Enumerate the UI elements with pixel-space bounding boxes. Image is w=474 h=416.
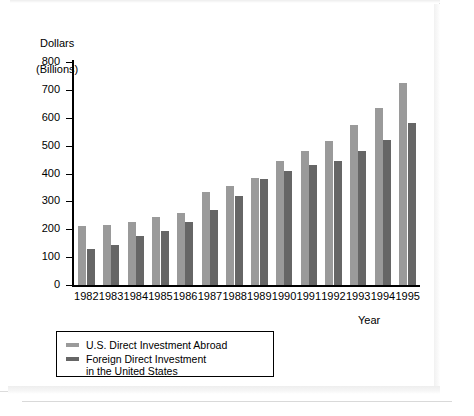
bar-1992-series-1 [334,161,342,285]
bar-group-1987 [202,62,219,285]
bar-group-1988 [226,62,243,285]
bar-1991-series-1 [309,165,317,285]
bar-1982-series-1 [87,249,95,285]
bar-1995-series-1 [408,123,416,285]
y-tick-label-700: 700 [20,84,60,95]
y-tick-label-400: 400 [20,168,60,179]
chart-page: Dollars (Billions) 800700600500400300200… [0,0,474,416]
legend-swatch-icon-light [66,343,79,347]
bar-1991-series-0 [301,151,309,285]
bar-group-1994 [375,62,392,285]
y-tick-600 [66,118,73,119]
bar-group-1982 [78,62,95,285]
y-tick-label-100: 100 [20,251,60,262]
bar-series-container [74,62,420,285]
bar-group-1990 [276,62,293,285]
bar-1994-series-1 [383,140,391,285]
bar-1993-series-1 [358,151,366,285]
x-tick-label-1995: 1995 [394,290,422,302]
y-tick-label-200: 200 [20,223,60,234]
y-tick-label-500: 500 [20,140,60,151]
bar-1990-series-1 [284,171,292,285]
legend-label-0: U.S. Direct Investment Abroad [86,339,227,351]
bar-1995-series-0 [399,83,407,285]
y-tick-label-0: 0 [20,279,60,290]
y-tick-800 [66,62,73,63]
bar-group-1984 [128,62,145,285]
y-tick-300 [66,201,73,202]
bar-group-1983 [103,62,120,285]
bar-1992-series-0 [325,141,333,285]
bar-1989-series-1 [260,179,268,285]
bar-1989-series-0 [251,178,259,285]
y-axis-title-line1: Dollars [36,37,78,50]
x-axis-title: Year [358,314,380,326]
y-tick-500 [66,146,73,147]
bar-group-1989 [251,62,268,285]
plate-bottom-rule [22,401,452,402]
legend-swatch-icon-dark [66,357,79,361]
x-axis-line [72,285,420,287]
bar-1984-series-1 [136,236,144,285]
bar-1983-series-1 [111,245,119,285]
bar-1984-series-0 [128,222,136,285]
y-tick-400 [66,174,73,175]
bar-1987-series-1 [210,210,218,285]
y-tick-0 [66,285,73,286]
bar-group-1985 [152,62,169,285]
legend-item-us-direct-investment-abroad: U.S. Direct Investment Abroad [66,339,227,351]
bar-1994-series-0 [375,108,383,285]
y-tick-label-300: 300 [20,195,60,206]
y-tick-700 [66,90,73,91]
bar-group-1995 [399,62,416,285]
bar-1986-series-1 [185,222,193,285]
bar-1988-series-0 [226,186,234,285]
y-tick-200 [66,229,73,230]
bar-group-1992 [325,62,342,285]
y-tick-100 [66,257,73,258]
bar-chart: Dollars (Billions) 800700600500400300200… [0,0,440,392]
bar-group-1986 [177,62,194,285]
legend-item-foreign-direct-investment-us: Foreign Direct Investment in the United … [66,353,206,377]
bar-1988-series-1 [235,196,243,285]
chart-legend: U.S. Direct Investment Abroad Foreign Di… [56,331,274,377]
bar-1985-series-0 [152,217,160,285]
legend-label-1: Foreign Direct Investment in the United … [86,353,206,377]
bar-1982-series-0 [78,226,86,285]
bar-group-1991 [301,62,318,285]
bar-1990-series-0 [276,161,284,285]
bar-1983-series-0 [103,225,111,285]
y-tick-label-800: 800 [20,56,60,67]
bar-group-1993 [350,62,367,285]
bar-1986-series-0 [177,213,185,285]
y-tick-label-600: 600 [20,112,60,123]
bar-1987-series-0 [202,192,210,285]
bar-1985-series-1 [161,231,169,285]
bar-1993-series-0 [350,125,358,285]
